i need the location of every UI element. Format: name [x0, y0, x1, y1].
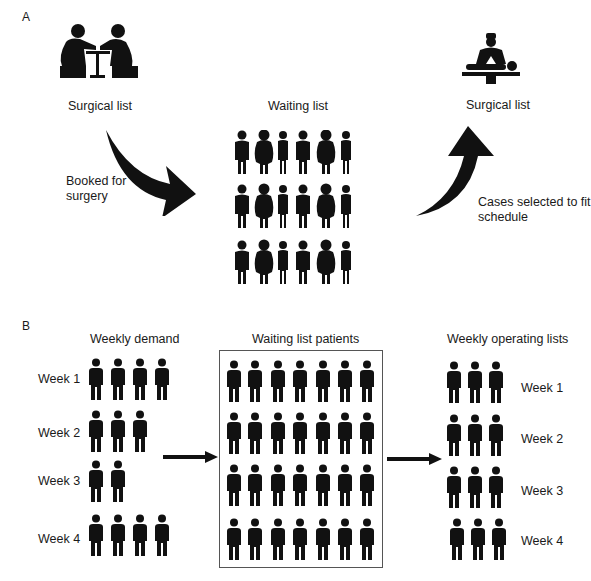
waiting-list-label: Waiting list: [268, 99, 328, 113]
operating-week-2-figures: [446, 414, 510, 458]
waiting-list-figures: [232, 130, 362, 310]
demand-week-3-figures: [88, 460, 178, 504]
demand-week-1-label: Week 1: [38, 372, 80, 386]
operating-week-2-label: Week 2: [521, 432, 563, 446]
weekly-operating-header: Weekly operating lists: [447, 332, 568, 346]
panel-a-letter: A: [22, 10, 30, 24]
demand-week-4-figures: [88, 514, 178, 558]
operating-week-4-label: Week 4: [521, 534, 563, 548]
operating-week-4-figures: [449, 518, 513, 562]
operating-week-1-figures: [446, 361, 510, 405]
surgeon-operating-icon: [460, 30, 522, 86]
demand-week-4-label: Week 4: [38, 532, 80, 546]
operating-week-3-label: Week 3: [521, 484, 563, 498]
waiting-patients-header: Waiting list patients: [252, 332, 359, 346]
cases-selected-label: Cases selected to fit schedule: [478, 195, 591, 225]
demand-week-2-label: Week 2: [38, 426, 80, 440]
arrow-to-operating-icon: [387, 452, 442, 466]
booked-label: Booked for surgery: [66, 174, 126, 204]
consultation-icon: [56, 22, 140, 82]
panel-b-letter: B: [22, 319, 30, 333]
demand-week-1-figures: [88, 358, 178, 402]
waiting-list-patient-figures: [226, 360, 378, 566]
demand-week-2-figures: [88, 410, 178, 454]
surgical-list-left-label: Surgical list: [68, 99, 132, 113]
operating-week-1-label: Week 1: [521, 381, 563, 395]
operating-week-3-figures: [446, 466, 510, 510]
weekly-demand-header: Weekly demand: [90, 332, 179, 346]
demand-week-3-label: Week 3: [38, 474, 80, 488]
surgical-list-right-label: Surgical list: [466, 98, 530, 112]
arrow-to-waiting-icon: [163, 450, 218, 464]
